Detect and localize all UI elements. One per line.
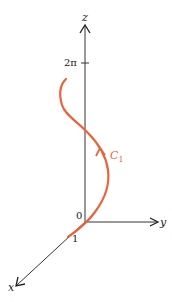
curve-label: C1 [110,149,124,164]
y-axis-label: y [159,216,167,229]
z-axis-label: z [81,11,88,24]
z-tick-label: 2π [64,57,77,68]
origin-label: 0 [76,210,82,221]
helix-diagram: z 2π y x 0 1 C1 [0,0,172,302]
helix-curve-c1 [60,79,108,237]
x-axis-label: x [8,281,15,294]
